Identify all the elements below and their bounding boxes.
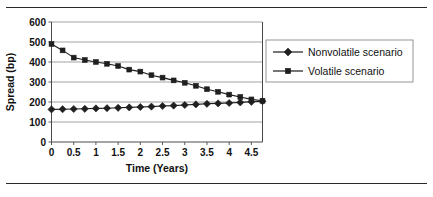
series-0-marker-16 bbox=[226, 99, 233, 106]
series-0-marker-9 bbox=[148, 103, 155, 110]
figure-container: 0100200300400500600 00.511.522.533.544.5… bbox=[0, 0, 433, 197]
series-0-marker-6 bbox=[115, 104, 122, 111]
series-0-marker-14 bbox=[203, 100, 210, 107]
series-0-marker-3 bbox=[81, 105, 88, 112]
series-1-marker-5 bbox=[105, 61, 110, 66]
series-0-marker-10 bbox=[159, 102, 166, 109]
series-0-marker-12 bbox=[181, 101, 188, 108]
x-tick-label-3: 3 bbox=[182, 147, 188, 158]
series-1-marker-1 bbox=[60, 48, 65, 53]
series-1-marker-14 bbox=[205, 87, 210, 92]
series-1-marker-10 bbox=[160, 75, 165, 80]
series-1-marker-19 bbox=[260, 98, 265, 103]
y-tick-label-100: 100 bbox=[29, 117, 46, 128]
series-1-marker-4 bbox=[94, 60, 99, 65]
series-1-marker-6 bbox=[116, 64, 121, 69]
series-0-marker-2 bbox=[70, 105, 77, 112]
series-0-marker-5 bbox=[103, 105, 110, 112]
y-tick-label-600: 600 bbox=[29, 17, 46, 28]
series-nonvolatile bbox=[48, 98, 266, 113]
series-1-marker-9 bbox=[149, 73, 154, 78]
series-1-marker-16 bbox=[227, 92, 232, 97]
x-tick-labels-group: 00.511.522.533.544.5 bbox=[49, 147, 259, 158]
chart-legend: Nonvolatile scenarioVolatile scenario bbox=[266, 40, 413, 82]
legend-1-marker-0 bbox=[285, 68, 290, 73]
series-1-marker-0 bbox=[49, 42, 54, 47]
series-1-marker-18 bbox=[249, 97, 254, 102]
spread-line-chart: 0100200300400500600 00.511.522.533.544.5… bbox=[0, 0, 433, 197]
y-tick-label-500: 500 bbox=[29, 37, 46, 48]
y-tick-label-400: 400 bbox=[29, 57, 46, 68]
series-0-marker-7 bbox=[126, 104, 133, 111]
series-0-marker-4 bbox=[92, 105, 99, 112]
series-0-marker-1 bbox=[59, 106, 66, 113]
x-tick-label-1: 1 bbox=[93, 147, 99, 158]
x-tick-label-3.5: 3.5 bbox=[200, 147, 214, 158]
x-tick-label-0: 0 bbox=[49, 147, 55, 158]
series-1-marker-12 bbox=[182, 80, 187, 85]
series-volatile bbox=[49, 42, 265, 104]
x-tick-label-2.5: 2.5 bbox=[156, 147, 170, 158]
series-1-marker-8 bbox=[138, 69, 143, 74]
series-1-marker-2 bbox=[71, 55, 76, 60]
x-tick-label-1.5: 1.5 bbox=[111, 147, 125, 158]
series-1-marker-3 bbox=[82, 58, 87, 63]
x-axis-title: Time (Years) bbox=[126, 162, 188, 174]
y-tick-label-0: 0 bbox=[40, 137, 46, 148]
series-0-marker-0 bbox=[48, 106, 55, 113]
x-tick-label-0.5: 0.5 bbox=[67, 147, 81, 158]
series-0-marker-8 bbox=[137, 103, 144, 110]
series-1-marker-11 bbox=[171, 78, 176, 83]
series-1-marker-17 bbox=[238, 95, 243, 100]
x-tick-label-4: 4 bbox=[226, 147, 232, 158]
series-1-marker-13 bbox=[193, 83, 198, 88]
y-tick-label-200: 200 bbox=[29, 97, 46, 108]
x-tick-label-4.5: 4.5 bbox=[244, 147, 258, 158]
y-axis-title: Spread (bp) bbox=[4, 53, 16, 111]
y-tick-label-300: 300 bbox=[29, 77, 46, 88]
legend-label-0: Nonvolatile scenario bbox=[308, 46, 403, 58]
series-1-marker-7 bbox=[127, 67, 132, 72]
series-0-marker-17 bbox=[237, 99, 244, 106]
series-0-marker-15 bbox=[214, 100, 221, 107]
y-tick-labels-group: 0100200300400500600 bbox=[29, 17, 46, 148]
x-tick-label-2: 2 bbox=[138, 147, 144, 158]
legend-label-1: Volatile scenario bbox=[308, 65, 385, 77]
series-1-marker-15 bbox=[216, 89, 221, 94]
series-0-marker-11 bbox=[170, 102, 177, 109]
